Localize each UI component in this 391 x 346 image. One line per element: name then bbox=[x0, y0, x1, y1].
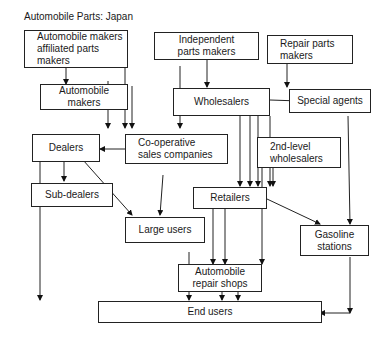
node-retailers: Retailers bbox=[193, 187, 267, 209]
node-automobile-makers: Automobile makers bbox=[40, 84, 128, 110]
node-large-users: Large users bbox=[125, 217, 205, 243]
node-repair-parts-makers: Repair parts makers bbox=[267, 35, 353, 64]
node-affiliated-parts-makers: Automobile makers affiliated parts maker… bbox=[24, 30, 128, 68]
node-independent-parts-makers: Independent parts makers bbox=[154, 32, 259, 60]
node-sub-dealers: Sub-dealers bbox=[31, 183, 113, 207]
node-automobile-repair-shops: Automobile repair shops bbox=[178, 264, 262, 292]
node-end-users: End users bbox=[98, 301, 322, 323]
node-co-operative-sales-companies: Co-operative sales companies bbox=[125, 134, 228, 164]
node-special-agents: Special agents bbox=[289, 89, 371, 113]
node-gasoline-stations: Gasoline stations bbox=[300, 225, 369, 256]
node-dealers: Dealers bbox=[32, 134, 100, 162]
node-wholesalers: Wholesalers bbox=[173, 88, 270, 116]
node-2nd-level-wholesalers: 2nd-level wholesalers bbox=[257, 137, 341, 168]
